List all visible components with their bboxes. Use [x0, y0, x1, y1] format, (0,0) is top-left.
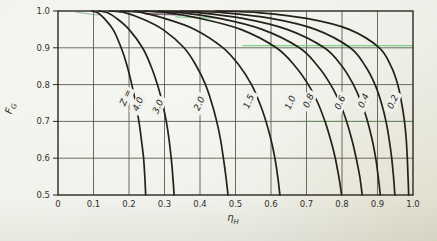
scanned-figure: Z =4.03.02.01.51.00.80.60.40.2 00.10.20.… [0, 0, 437, 241]
y-tick-label: 0.8 [36, 80, 50, 90]
curve-label-02: 0.2 [384, 90, 403, 114]
x-tick-label: 0 [55, 199, 60, 209]
x-tick-label: 1.0 [406, 199, 420, 209]
curve-label-20: 2.0 [190, 92, 209, 116]
y-tick-label: 1.0 [36, 6, 50, 16]
y-tick-label: 0.5 [36, 190, 50, 200]
x-axis-title: ηH [227, 212, 239, 226]
x-tick-label: 0.2 [122, 199, 136, 209]
curve-label-08: 0.8 [299, 89, 318, 113]
x-tick-label: 0.5 [229, 199, 243, 209]
x-tick-label: 0.8 [335, 199, 349, 209]
x-tick-label: 0.7 [300, 199, 314, 209]
curve-label-10: 1.0 [281, 91, 300, 115]
y-tick-label: 0.7 [36, 116, 50, 126]
curve-z-0.6 [159, 11, 380, 195]
x-tick-label: 0.6 [264, 199, 278, 209]
x-tick-label: 0.1 [87, 199, 101, 209]
y-tick-label: 0.9 [36, 43, 50, 53]
x-tick-label: 0.3 [158, 199, 172, 209]
curve-label-15: 1.5 [240, 90, 259, 114]
x-tick-label: 0.4 [193, 199, 207, 209]
y-tick-label: 0.6 [36, 153, 50, 163]
x-tick-label: 0.9 [371, 199, 385, 209]
y-axis-title: FG [3, 101, 19, 116]
fg-correction-chart: Z =4.03.02.01.51.00.80.60.40.2 00.10.20.… [0, 0, 437, 241]
curve-label-06: 0.6 [331, 91, 350, 115]
